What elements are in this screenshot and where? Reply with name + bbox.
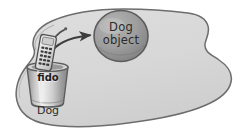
dog-object-circle[interactable] (94, 11, 148, 62)
diagram-svg (0, 0, 244, 129)
diagram-canvas: Dog object fido Dog (0, 0, 244, 129)
